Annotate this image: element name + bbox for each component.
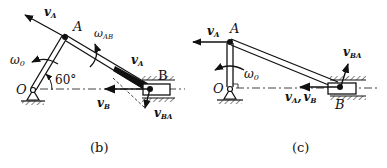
label-b: B [334,97,345,112]
label-a: A [229,21,239,36]
figure-b: vA A ωAB vA B ω0 60° O vB vBA (b) [10,5,185,155]
label-vba: vBA [154,106,173,121]
figure-c: vA A vBA ω0 O vA,vB B (c) [193,21,378,155]
caption-c: (c) [292,140,309,155]
label-o: O [213,81,224,96]
label-vb: vB [97,96,110,111]
label-angle: 60° [55,73,76,87]
label-a: A [72,19,82,34]
label-vba: vBA [343,45,362,60]
label-va-vb: vA,vB [285,90,317,105]
caption-b: (b) [90,140,108,155]
label-omega0: ω0 [10,53,25,68]
crank-oa [227,43,233,87]
label-va-link: vA [131,53,144,68]
mechanism-diagrams: vA A ωAB vA B ω0 60° O vB vBA (b) [0,0,387,168]
label-va-top: vA [44,5,57,20]
label-va-top: vA [207,24,220,39]
label-b: B [158,68,168,83]
omega-ab-rotation-icon [90,44,97,67]
angle-arc-icon [46,74,52,90]
label-o: O [16,82,27,97]
label-omega0: ω0 [244,67,259,82]
omega0-rotation-icon [215,66,244,70]
label-omega-ab: ωAB [94,27,113,41]
